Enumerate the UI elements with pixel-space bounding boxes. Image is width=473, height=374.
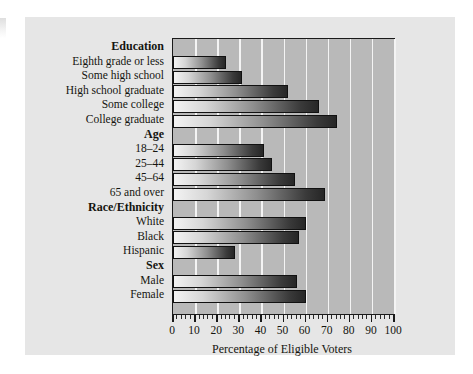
bar-hispanic <box>173 246 235 259</box>
bar-45-64 <box>173 173 295 186</box>
x-tick-label-10: 10 <box>188 324 200 336</box>
major-tick-50 <box>283 315 285 322</box>
minor-tick-92 <box>375 315 376 319</box>
minor-tick-34 <box>247 315 248 319</box>
minor-tick-2 <box>176 315 177 319</box>
x-tick-label-40: 40 <box>255 324 267 336</box>
minor-tick-64 <box>313 315 314 319</box>
bar-college-graduate <box>173 115 337 128</box>
minor-tick-48 <box>278 315 279 319</box>
bar-18-24 <box>173 144 264 157</box>
group-label-race-ethnicity: Race/Ethnicity <box>88 201 164 214</box>
category-label-male: Male <box>140 274 164 287</box>
major-tick-20 <box>216 315 218 322</box>
minor-tick-24 <box>225 315 226 319</box>
major-tick-100 <box>393 315 395 322</box>
minor-tick-56 <box>296 315 297 319</box>
category-label-eighth-grade-or-less: Eighth grade or less <box>72 55 164 68</box>
x-axis: Percentage of Eligible Voters 0102030405… <box>172 315 396 363</box>
major-tick-10 <box>194 315 196 322</box>
minor-tick-18 <box>212 315 213 319</box>
minor-tick-4 <box>181 315 182 319</box>
minor-tick-14 <box>203 315 204 319</box>
minor-tick-44 <box>269 315 270 319</box>
bar-25-44 <box>173 158 272 171</box>
figure-panel: EducationEighth grade or lessSome high s… <box>25 17 455 355</box>
x-tick-label-20: 20 <box>210 324 222 336</box>
minor-tick-16 <box>207 315 208 319</box>
category-label-high-school-graduate: High school graduate <box>66 84 164 97</box>
group-label-education: Education <box>111 40 164 53</box>
minor-tick-46 <box>274 315 275 319</box>
minor-tick-12 <box>199 315 200 319</box>
category-label-45-64: 45–64 <box>135 171 164 184</box>
x-tick-label-90: 90 <box>365 324 377 336</box>
minor-tick-94 <box>380 315 381 319</box>
x-tick-label-80: 80 <box>343 324 355 336</box>
bar-female <box>173 290 306 303</box>
x-tick-label-0: 0 <box>169 324 175 336</box>
minor-tick-22 <box>221 315 222 319</box>
bar-male <box>173 275 297 288</box>
major-tick-60 <box>305 315 307 322</box>
minor-tick-74 <box>336 315 337 319</box>
minor-tick-54 <box>291 315 292 319</box>
group-label-age: Age <box>144 128 164 141</box>
category-label-65-and-over: 65 and over <box>110 186 164 199</box>
category-label-female: Female <box>130 288 164 301</box>
category-label-black: Black <box>137 230 164 243</box>
category-label-some-high-school: Some high school <box>82 69 164 82</box>
minor-tick-68 <box>322 315 323 319</box>
x-tick-label-50: 50 <box>277 324 289 336</box>
minor-tick-8 <box>190 315 191 319</box>
minor-tick-36 <box>252 315 253 319</box>
category-label-18-24: 18–24 <box>135 142 164 155</box>
minor-tick-28 <box>234 315 235 319</box>
x-tick-label-60: 60 <box>299 324 311 336</box>
minor-tick-72 <box>331 315 332 319</box>
bar-some-college <box>173 100 319 113</box>
minor-tick-38 <box>256 315 257 319</box>
minor-tick-82 <box>353 315 354 319</box>
major-tick-80 <box>349 315 351 322</box>
group-label-sex: Sex <box>146 259 164 272</box>
category-label-white: White <box>136 215 164 228</box>
minor-tick-76 <box>340 315 341 319</box>
bar-high-school-graduate <box>173 85 288 98</box>
major-tick-70 <box>327 315 329 322</box>
gridline-100 <box>394 39 396 314</box>
page-edge-artifact <box>0 18 6 38</box>
major-tick-90 <box>371 315 373 322</box>
bar-white <box>173 217 306 230</box>
minor-tick-52 <box>287 315 288 319</box>
bar-65-and-over <box>173 188 325 201</box>
minor-tick-26 <box>229 315 230 319</box>
bar-black <box>173 231 299 244</box>
minor-tick-84 <box>358 315 359 319</box>
minor-tick-58 <box>300 315 301 319</box>
minor-tick-6 <box>185 315 186 319</box>
x-axis-tickmarks <box>172 315 393 323</box>
plot-area <box>172 38 395 315</box>
category-label-25-44: 25–44 <box>135 157 164 170</box>
minor-tick-78 <box>344 315 345 319</box>
category-label-column: EducationEighth grade or lessSome high s… <box>25 38 168 318</box>
category-label-college-graduate: College graduate <box>86 113 164 126</box>
minor-tick-98 <box>389 315 390 319</box>
minor-tick-42 <box>265 315 266 319</box>
minor-tick-88 <box>366 315 367 319</box>
category-label-hispanic: Hispanic <box>123 244 164 257</box>
major-tick-0 <box>172 315 174 322</box>
major-tick-30 <box>238 315 240 322</box>
minor-tick-86 <box>362 315 363 319</box>
bars-layer <box>173 39 394 314</box>
minor-tick-32 <box>243 315 244 319</box>
minor-tick-62 <box>309 315 310 319</box>
minor-tick-66 <box>318 315 319 319</box>
x-tick-label-100: 100 <box>384 324 401 336</box>
x-tick-label-70: 70 <box>321 324 333 336</box>
x-tick-label-30: 30 <box>233 324 245 336</box>
bar-some-high-school <box>173 71 242 84</box>
minor-tick-96 <box>384 315 385 319</box>
x-axis-title: Percentage of Eligible Voters <box>212 342 352 357</box>
